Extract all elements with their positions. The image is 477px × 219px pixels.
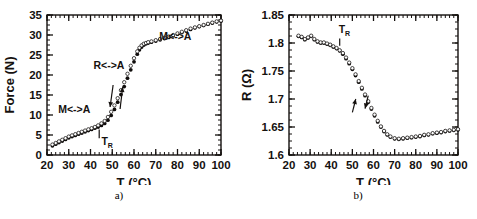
data-point xyxy=(116,97,119,100)
data-point xyxy=(341,51,344,54)
x-tick-label: 50 xyxy=(106,159,119,171)
chart-svg-b: 20304050607080901001.61.651.71.751.81.85… xyxy=(239,0,477,185)
y-tick-label: 15 xyxy=(29,89,42,101)
series-heating xyxy=(297,34,460,141)
data-point xyxy=(389,135,392,138)
x-tick-label: 90 xyxy=(193,159,206,171)
data-point xyxy=(427,133,430,136)
data-point xyxy=(309,34,312,37)
y-tick-label: 5 xyxy=(36,129,43,141)
data-point xyxy=(423,133,426,136)
y-tick-label: 1.65 xyxy=(262,121,285,133)
data-point xyxy=(456,128,459,131)
chart-panel-b: 20304050607080901001.61.651.71.751.81.85… xyxy=(239,0,477,219)
y-tick-label: 1.75 xyxy=(262,65,285,77)
data-point xyxy=(376,119,379,122)
data-point xyxy=(106,115,109,118)
y-tick-label: 0 xyxy=(36,149,42,161)
data-point xyxy=(129,68,133,72)
data-point xyxy=(410,135,413,138)
y-tick-label: 1.8 xyxy=(268,37,285,49)
data-point xyxy=(154,39,157,42)
data-point xyxy=(344,56,347,59)
data-point xyxy=(57,140,60,143)
phase-label-mid-text: R<->A xyxy=(94,59,125,71)
series-cooling xyxy=(297,34,460,140)
series-heating xyxy=(51,19,223,148)
data-point xyxy=(379,125,382,128)
transition-temp-label: TR xyxy=(339,23,350,37)
x-tick-label: 40 xyxy=(325,159,338,171)
data-point xyxy=(373,113,376,116)
x-tick-label: 60 xyxy=(128,159,141,171)
data-point xyxy=(113,108,117,112)
data-point xyxy=(363,93,366,96)
data-point xyxy=(382,129,385,132)
transition-temp-label-text: TR xyxy=(339,23,350,37)
heating-arrow xyxy=(352,99,357,112)
series-cooling xyxy=(51,19,223,146)
x-tick-label: 100 xyxy=(448,159,467,171)
y-axis-title: Force (N) xyxy=(2,56,17,113)
data-point xyxy=(348,61,351,64)
data-point xyxy=(335,46,338,49)
data-point xyxy=(439,130,442,133)
x-tick-label: 60 xyxy=(367,159,380,171)
data-point xyxy=(351,67,354,70)
y-tick-label: 1.85 xyxy=(262,9,285,21)
data-point xyxy=(313,37,316,40)
data-point xyxy=(150,40,153,43)
data-point xyxy=(103,119,106,122)
data-point xyxy=(109,110,112,113)
data-point xyxy=(370,106,373,109)
data-point xyxy=(129,64,132,67)
data-point xyxy=(300,35,303,38)
data-point xyxy=(448,129,451,132)
x-tick-label: 70 xyxy=(388,159,401,171)
transition-temp-label: TR xyxy=(101,135,112,149)
data-point xyxy=(338,49,341,52)
data-point xyxy=(418,134,421,137)
data-point xyxy=(215,20,218,23)
figure-container: 203040506070809010005101520253035T (°C)F… xyxy=(0,0,477,219)
phase-label-low-text: M<->A xyxy=(58,103,91,115)
data-point xyxy=(211,21,214,24)
data-point xyxy=(354,73,357,76)
chart-svg-a: 203040506070809010005101520253035T (°C)F… xyxy=(0,0,238,185)
y-tick-label: 20 xyxy=(29,69,42,81)
data-point xyxy=(386,133,389,136)
data-point xyxy=(126,72,129,75)
x-tick-label: 80 xyxy=(171,159,184,171)
data-point xyxy=(96,124,99,127)
x-tick-label: 20 xyxy=(283,159,296,171)
data-point xyxy=(136,50,139,53)
data-point xyxy=(202,23,205,26)
x-axis-title: T (°C) xyxy=(356,175,391,185)
y-tick-label: 30 xyxy=(29,29,42,41)
phase-label-high: M<->A xyxy=(159,30,192,42)
x-tick-label: 20 xyxy=(41,159,54,171)
x-tick-label: 30 xyxy=(62,159,75,171)
x-tick-label: 30 xyxy=(304,159,317,171)
data-point xyxy=(397,137,400,140)
data-point xyxy=(54,141,57,144)
data-point xyxy=(452,128,455,131)
y-tick-label: 35 xyxy=(29,9,42,21)
panel-caption-b: b) xyxy=(353,189,362,201)
data-point xyxy=(206,22,209,25)
x-tick-label: 50 xyxy=(346,159,359,171)
data-point xyxy=(132,60,136,64)
data-point xyxy=(219,19,222,22)
phase-label-low: M<->A xyxy=(58,103,91,115)
data-point xyxy=(126,76,130,80)
data-point xyxy=(100,122,103,125)
data-point xyxy=(406,136,409,139)
data-point xyxy=(444,129,447,132)
y-tick-label: 25 xyxy=(29,49,42,61)
data-point xyxy=(132,57,135,60)
x-tick-label: 40 xyxy=(84,159,97,171)
data-point xyxy=(431,131,434,134)
data-point xyxy=(116,100,120,104)
data-point xyxy=(123,81,126,84)
x-tick-label: 80 xyxy=(409,159,422,171)
